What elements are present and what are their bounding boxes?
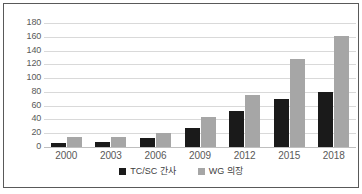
bar-group: [133, 23, 178, 147]
y-axis-tick-label: 60: [15, 101, 41, 110]
y-axis-tick-label: 120: [15, 59, 41, 68]
bar: [334, 36, 349, 147]
y-axis-tick-label: 40: [15, 114, 41, 123]
legend-swatch-icon: [119, 168, 126, 175]
bar-group: [89, 23, 134, 147]
bar-group: [222, 23, 267, 147]
chart-legend: TC/SC 간사WG 의장: [4, 167, 358, 176]
bar: [95, 142, 110, 148]
bar: [185, 128, 200, 147]
legend-label: WG 의장: [209, 167, 243, 176]
y-axis-tick-label: 140: [15, 46, 41, 55]
x-axis: 2000200320062009201220152018: [44, 149, 356, 163]
y-axis-tick-label: 20: [15, 128, 41, 137]
x-axis-tick-label: 2018: [311, 149, 356, 163]
axis-baseline: [44, 147, 356, 148]
y-axis-tick-label: 0: [15, 142, 41, 151]
chart-bars-area: [44, 23, 356, 147]
bar: [201, 117, 216, 147]
y-axis: 180160140120100806040200: [10, 19, 41, 144]
bar: [156, 133, 171, 147]
bar: [318, 92, 333, 147]
chart-plot-wrapper: 180160140120100806040200 200020032006200…: [4, 4, 358, 187]
x-axis-tick-label: 2000: [44, 149, 89, 163]
bar-group: [311, 23, 356, 147]
bar: [245, 95, 260, 147]
x-axis-tick-label: 2006: [133, 149, 178, 163]
bar: [290, 59, 305, 147]
y-axis-tick-label: 80: [15, 87, 41, 96]
x-axis-tick-label: 2015: [267, 149, 312, 163]
bar-group: [178, 23, 223, 147]
legend-swatch-icon: [198, 168, 205, 175]
bar: [111, 137, 126, 147]
x-axis-tick-label: 2012: [222, 149, 267, 163]
x-axis-tick-label: 2003: [89, 149, 134, 163]
bar-group: [44, 23, 89, 147]
legend-label: TC/SC 간사: [130, 167, 176, 176]
chart-container: 180160140120100806040200 200020032006200…: [3, 3, 359, 188]
bar: [229, 111, 244, 147]
y-axis-tick-label: 100: [15, 73, 41, 82]
legend-item[interactable]: TC/SC 간사: [119, 167, 176, 176]
bar: [67, 137, 82, 147]
x-axis-tick-label: 2009: [178, 149, 223, 163]
bar: [140, 138, 155, 147]
y-axis-tick-label: 160: [15, 32, 41, 41]
bar-group: [267, 23, 312, 147]
legend-item[interactable]: WG 의장: [198, 167, 243, 176]
bar: [51, 143, 66, 147]
y-axis-tick-label: 180: [15, 18, 41, 27]
bar: [274, 99, 289, 147]
